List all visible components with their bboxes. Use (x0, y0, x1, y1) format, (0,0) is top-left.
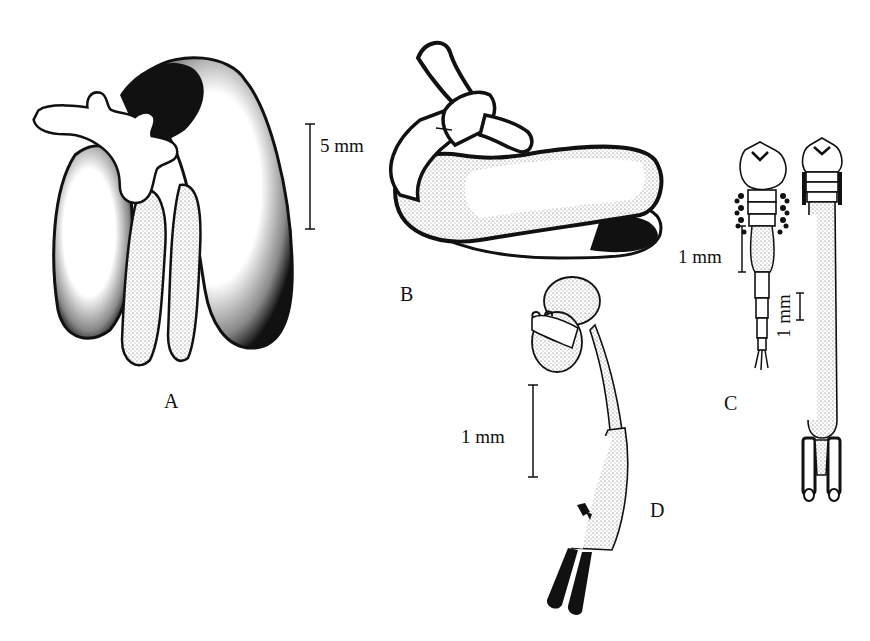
scale-label-c-right: 1 mm (774, 294, 793, 338)
scale-label-d: 1 mm (461, 427, 505, 446)
scale-bar-c-right (796, 293, 804, 320)
scale-bar-a (305, 124, 315, 229)
panel-d-drawing (532, 277, 628, 615)
figure-canvas (0, 0, 870, 641)
panel-b-drawing (391, 43, 662, 258)
scale-label-c-left: 1 mm (678, 247, 722, 266)
panel-label-d: D (650, 500, 664, 520)
panel-c-right-drawing (803, 138, 842, 501)
panel-label-a: A (164, 391, 178, 411)
scientific-figure: 5 mm A B C D 1 mm 1 mm 1 mm (0, 0, 870, 641)
panel-label-c: C (724, 393, 737, 413)
scale-label-a: 5 mm (320, 136, 364, 155)
scale-bar-d (528, 385, 538, 477)
panel-a-drawing (36, 58, 292, 365)
panel-label-b: B (400, 284, 413, 304)
